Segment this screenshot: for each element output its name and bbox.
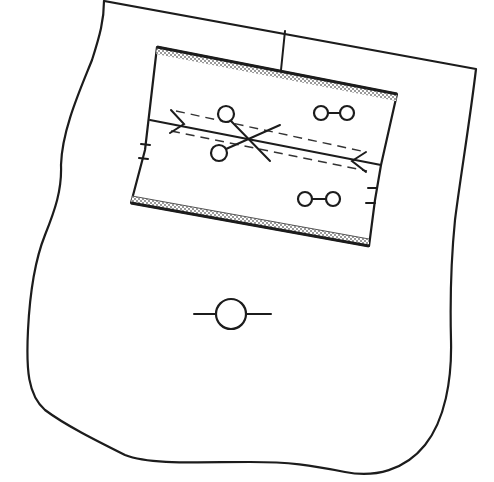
arrow-tack-left-icon: [170, 110, 184, 133]
button-pair-lower-icon: [298, 192, 340, 206]
buttonhole-marker-icon: [194, 299, 271, 329]
stitch-line-lower: [171, 131, 367, 171]
center-cut-line: [150, 120, 381, 165]
sewing-pattern-diagram: Garment front piece with a rectangular w…: [0, 0, 494, 482]
welt-pocket: [131, 47, 397, 246]
top-interfacing-band: [156, 47, 397, 101]
center-seam-line: [281, 31, 285, 70]
button-pair-upper-icon: [314, 106, 354, 120]
